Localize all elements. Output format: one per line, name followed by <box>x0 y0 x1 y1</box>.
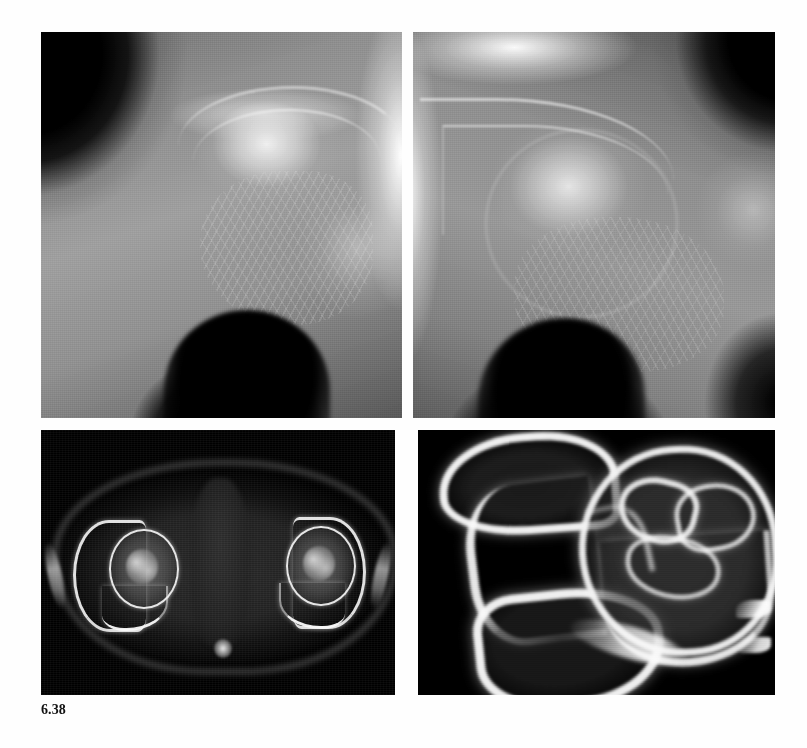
panel-magnified-ct-hip <box>418 430 775 695</box>
figure-number-caption: 6.38 <box>41 703 66 717</box>
coccyx-ct <box>214 639 232 658</box>
left-hip-joint-ct <box>250 517 363 623</box>
peripheral-bone-fragment-lower <box>739 637 771 653</box>
pubic-ramus-cortex <box>102 586 167 631</box>
figure-plate: 6.38 <box>0 0 807 748</box>
midline-pelvic-organs <box>190 478 250 648</box>
panel-ap-radiograph-right-hip <box>41 32 402 418</box>
right-hip-joint-ct <box>73 520 186 626</box>
magnified-ct-image <box>418 430 775 695</box>
pubic-ramus-cortex <box>279 583 344 628</box>
panel-ap-radiograph-left-hip <box>413 32 775 418</box>
panel-axial-ct-pelvis <box>41 430 395 695</box>
